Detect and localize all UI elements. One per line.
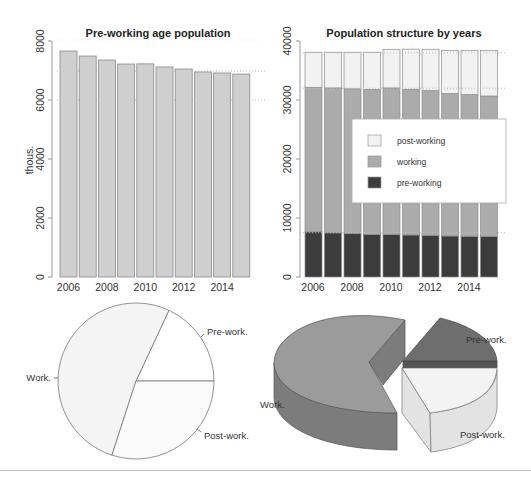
bar-segment-pre-working: [403, 235, 420, 277]
bar: [118, 64, 135, 277]
x-tick-label: 2008: [340, 281, 364, 293]
bar-segment-pre-working: [364, 234, 381, 277]
bar: [214, 73, 231, 277]
bar-segment-post-working: [442, 50, 459, 93]
legend-swatch-pre-working: [368, 177, 381, 188]
bar-segment-pre-working: [325, 233, 342, 277]
legend-label: post-working: [397, 136, 445, 146]
legend-swatch-working: [368, 156, 381, 167]
y-tick-label: 10000: [281, 203, 293, 232]
x-tick-label: 2014: [457, 281, 481, 293]
legend-label: pre-working: [397, 178, 442, 188]
population-structure-stacked-bar-chart: Population structure by years01000020000…: [281, 26, 506, 293]
bar-segment-post-working: [325, 52, 342, 88]
bar: [79, 56, 96, 277]
x-tick-label: 2006: [57, 281, 81, 293]
pie3d-label-work: Work.: [260, 399, 285, 410]
pie3d-label-post-work: Post-work.: [460, 429, 505, 440]
pie-label-post-work: Post-work.: [204, 430, 249, 441]
bar-segment-pre-working: [383, 234, 400, 277]
bar: [60, 51, 77, 277]
bar-segment-post-working: [305, 52, 322, 87]
bar-segment-pre-working: [305, 232, 322, 277]
bar-segment-post-working: [422, 49, 439, 90]
bar-segment-post-working: [403, 49, 420, 89]
bar-segment-pre-working: [461, 236, 478, 277]
legend-swatch-post-working: [368, 135, 381, 146]
pie-label-work: Work.: [26, 372, 51, 383]
bar: [98, 60, 115, 277]
chart-title: Population structure by years: [326, 27, 481, 39]
bar-segment-pre-working: [481, 236, 498, 277]
pre-working-bar-chart: Pre-working age population02000400060008…: [23, 27, 265, 293]
y-axis-label: thous.: [23, 146, 35, 175]
bar: [156, 67, 173, 277]
y-tick-label: 2000: [34, 206, 46, 230]
bar-segment-working: [305, 87, 322, 231]
bar: [233, 74, 250, 277]
bar-segment-working: [325, 88, 342, 233]
bar-segment-post-working: [383, 49, 400, 88]
x-tick-label: 2010: [379, 281, 403, 293]
x-tick-label: 2014: [210, 281, 234, 293]
pie-label-pre-work: Pre-work.: [207, 326, 248, 337]
legend: post-workingworkingpre-working: [352, 119, 506, 203]
x-tick-label: 2006: [301, 281, 325, 293]
y-tick-label: 20000: [281, 144, 293, 173]
pie3d-label-pre-work: Pre-work.: [466, 334, 507, 345]
bar-segment-post-working: [481, 51, 498, 96]
leader-line: [201, 334, 204, 337]
bar-segment-post-working: [344, 52, 361, 89]
y-tick-label: 30000: [281, 85, 293, 114]
y-tick-label: 0: [281, 274, 293, 280]
bar: [137, 64, 154, 277]
pie3d-pre-work-side: [403, 361, 497, 368]
y-tick-label: 0: [34, 274, 46, 280]
leader-line: [197, 429, 201, 432]
bar-segment-post-working: [461, 50, 478, 94]
population-3d-pie-chart: Pre-work.Work.Post-work.: [260, 316, 507, 452]
legend-label: working: [396, 157, 427, 167]
bottom-divider: [0, 470, 531, 471]
x-tick-label: 2012: [418, 281, 442, 293]
bar: [194, 72, 211, 277]
y-tick-label: 40000: [281, 26, 293, 55]
chart-canvas: Pre-working age population02000400060008…: [0, 0, 531, 486]
y-tick-label: 6000: [34, 88, 46, 112]
y-tick-label: 8000: [34, 29, 46, 53]
y-tick-label: 4000: [34, 147, 46, 171]
bar-segment-post-working: [364, 52, 381, 89]
bar-segment-pre-working: [344, 234, 361, 277]
x-tick-label: 2008: [95, 281, 119, 293]
bar-segment-pre-working: [442, 236, 459, 277]
population-pie-chart: Pre-work.Work.Post-work.: [26, 303, 249, 459]
x-tick-label: 2012: [172, 281, 196, 293]
bar-segment-pre-working: [422, 235, 439, 277]
bar: [175, 69, 192, 277]
x-tick-label: 2010: [134, 281, 158, 293]
chart-title: Pre-working age population: [86, 27, 231, 39]
